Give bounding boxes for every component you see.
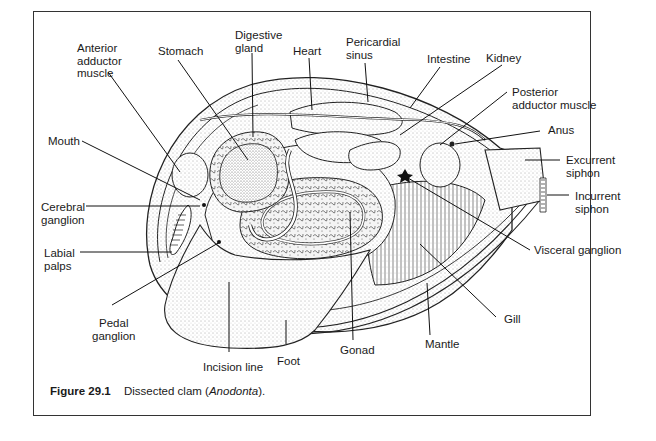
label-pedal-ganglion: Pedal ganglion [92, 317, 135, 342]
label-labial-palps: Labial palps [44, 247, 75, 272]
label-incision-line: Incision line [203, 361, 263, 374]
label-heart: Heart [293, 45, 321, 58]
label-kidney: Kidney [486, 52, 521, 65]
label-mouth: Mouth [48, 135, 80, 148]
label-intestine: Intestine [427, 53, 470, 66]
caption-suffix: ). [258, 385, 265, 397]
caption-prefix: Dissected clam ( [124, 385, 209, 397]
label-posterior-adductor-muscle: Posterior adductor muscle [512, 86, 596, 111]
label-anterior-adductor-muscle: Anterior adductor muscle [77, 42, 122, 80]
figure-caption: Figure 29.1 Dissected clam (Anodonta). [50, 385, 265, 397]
label-incurrent-siphon: Incurrent siphon [575, 190, 620, 215]
label-gill: Gill [504, 313, 521, 326]
label-foot: Foot [277, 355, 300, 368]
label-pericardial-sinus: Pericardial sinus [346, 36, 400, 61]
label-stomach: Stomach [158, 45, 203, 58]
label-visceral-ganglion: Visceral ganglion [534, 244, 621, 257]
posterior-adductor-shape [420, 143, 460, 187]
label-excurrent-siphon: Excurrent siphon [566, 154, 615, 179]
label-mantle: Mantle [425, 338, 460, 351]
caption-genus: Anodonta [209, 385, 258, 397]
label-cerebral-ganglion: Cerebral ganglion [41, 201, 85, 226]
figure-number: Figure 29.1 [50, 385, 111, 397]
caption-text: Dissected clam (Anodonta). [124, 385, 265, 397]
anterior-adductor-shape [172, 153, 208, 197]
label-digestive-gland: Digestive gland [235, 29, 282, 54]
label-anus: Anus [548, 124, 574, 137]
label-gonad: Gonad [340, 344, 375, 357]
